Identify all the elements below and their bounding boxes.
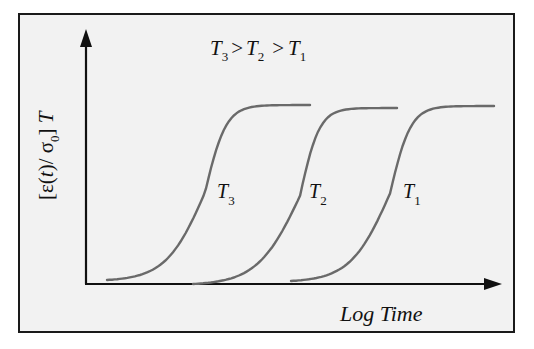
- chart-plot: T3 T2 T1 T3>T2>T1 Log Time [ε(t)/ σ0] T: [0, 0, 534, 349]
- curves: [107, 105, 494, 284]
- y-axis-label: [ε(t)/ σ0] T: [34, 110, 62, 200]
- curve-label-t2: T2: [309, 180, 327, 208]
- x-axis-arrow-icon: [484, 278, 502, 290]
- y-axis-arrow-icon: [80, 29, 92, 47]
- curve-t3: [107, 105, 310, 280]
- curve-label-t1: T1: [403, 180, 421, 208]
- curve-label-t3: T3: [217, 180, 235, 208]
- x-axis-label: Log Time: [339, 301, 423, 326]
- chart-title: T3>T2>T1: [210, 36, 306, 64]
- axes: [80, 29, 502, 290]
